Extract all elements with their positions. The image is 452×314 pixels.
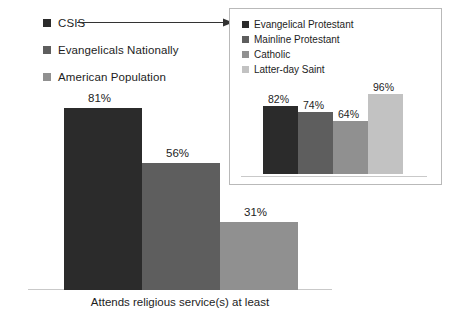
inset-chart-bar-value: 74% <box>303 99 324 111</box>
legend-swatch-icon <box>43 73 51 81</box>
legend-item-american-population: American Population <box>43 66 233 88</box>
main-chart-axis-line <box>28 289 332 290</box>
inset-chart-bar <box>298 112 333 174</box>
csis-to-inset-arrow-icon <box>77 14 233 30</box>
inset-chart-bar-value: 96% <box>373 81 394 93</box>
main-chart-bar-value: 56% <box>166 147 189 159</box>
inset-legend-item-label: Latter-day Saint <box>254 64 325 75</box>
legend-swatch-icon <box>242 51 249 58</box>
inset-legend-item-catholic: Catholic <box>242 48 354 61</box>
legend-swatch-icon <box>43 46 51 54</box>
inset-legend-item-label: Catholic <box>254 49 290 60</box>
main-chart-bar <box>220 222 298 290</box>
legend-swatch-icon <box>242 21 249 28</box>
main-chart-bar <box>64 108 142 290</box>
legend-item-evangelicals-nationally: Evangelicals Nationally <box>43 39 233 61</box>
main-chart-bar <box>142 163 220 290</box>
inset-chart-bar <box>368 94 403 174</box>
inset-chart-bar <box>263 106 298 174</box>
legend-swatch-icon <box>242 66 249 73</box>
inset-legend-item-mainline-protestant: Mainline Protestant <box>242 33 354 46</box>
legend-item-label: Evangelicals Nationally <box>58 44 179 56</box>
inset-chart-bar <box>333 121 368 174</box>
main-chart-x-axis-label: Attends religious service(s) at least <box>0 296 360 308</box>
inset-chart-legend: Evangelical Protestant Mainline Protesta… <box>242 18 354 78</box>
inset-legend-item-label: Evangelical Protestant <box>254 19 354 30</box>
main-chart-bar-value: 31% <box>244 206 267 218</box>
inset-legend-item-evangelical-protestant: Evangelical Protestant <box>242 18 354 31</box>
inset-chart-panel: Evangelical Protestant Mainline Protesta… <box>229 8 442 185</box>
inset-legend-item-latter-day-saint: Latter-day Saint <box>242 63 354 76</box>
inset-chart-axis-line <box>241 176 427 177</box>
inset-legend-item-label: Mainline Protestant <box>254 34 340 45</box>
legend-swatch-icon <box>242 36 249 43</box>
main-chart-bar-value: 81% <box>88 92 111 104</box>
legend-swatch-icon <box>43 19 51 27</box>
inset-chart-bar-value: 64% <box>338 108 359 120</box>
legend-item-label: American Population <box>58 71 166 83</box>
inset-chart-bar-value: 82% <box>268 93 289 105</box>
